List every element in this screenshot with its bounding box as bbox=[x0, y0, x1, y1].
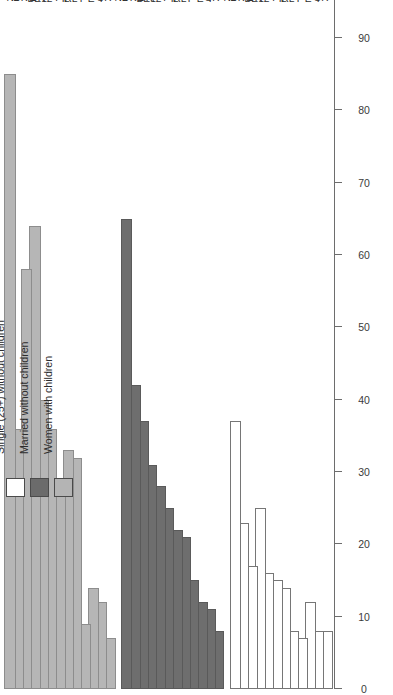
legend-label-married: Married without children bbox=[18, 342, 30, 454]
axis-tick-label: 80 bbox=[344, 104, 384, 116]
axis-tick-label: 10 bbox=[344, 611, 384, 623]
axis-tick bbox=[335, 399, 342, 400]
chart-legend: Single (25+) without children Married wi… bbox=[6, 478, 72, 678]
axis-tick-label: 60 bbox=[344, 249, 384, 261]
legend-label-children: Women with children bbox=[42, 356, 54, 454]
axis-tick-label: 90 bbox=[344, 32, 384, 44]
axis-tick bbox=[335, 109, 342, 110]
axis-tick bbox=[335, 37, 342, 38]
bar bbox=[230, 421, 241, 689]
axis-tick bbox=[335, 326, 342, 327]
axis-tick bbox=[335, 616, 342, 617]
axis-tick bbox=[335, 688, 342, 689]
axis-tick-label: 30 bbox=[344, 466, 384, 478]
legend-label-single: Single (25+) without children bbox=[0, 320, 6, 454]
axis-tick bbox=[335, 182, 342, 183]
axis-tick-label: 50 bbox=[344, 321, 384, 333]
bar bbox=[121, 219, 132, 689]
axis-tick-label: 70 bbox=[344, 177, 384, 189]
axis-tick-label: 20 bbox=[344, 538, 384, 550]
axis-tick bbox=[335, 543, 342, 544]
axis-tick-label: 40 bbox=[344, 394, 384, 406]
axis-tick bbox=[335, 254, 342, 255]
axis-tick-label: 0 bbox=[344, 683, 384, 695]
axis-tick bbox=[335, 471, 342, 472]
legend-swatch-single bbox=[6, 478, 25, 497]
value-axis-ticks: 0102030405060708090 bbox=[335, 0, 368, 689]
legend-swatch-married bbox=[30, 478, 49, 497]
legend-swatch-children bbox=[54, 478, 73, 497]
